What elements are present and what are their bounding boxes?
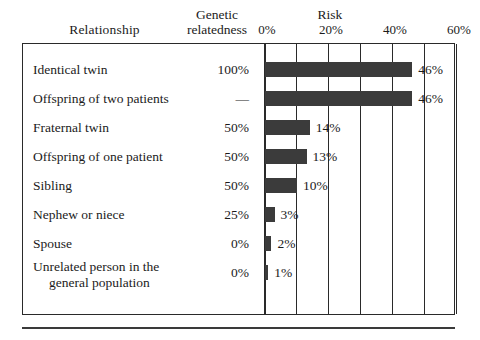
risk-bar-label: 10% (303, 171, 328, 200)
risk-bar (265, 178, 297, 193)
risk-bar (265, 236, 271, 251)
column-header-genetic-relatedness: Genetic relatedness (184, 7, 250, 37)
risk-bar (265, 149, 307, 164)
row-value-genetic-relatedness: 25% (183, 200, 249, 229)
table-row: Spouse0%2% (23, 229, 454, 258)
risk-bar-label: 46% (418, 84, 443, 113)
row-label-line1: Unrelated person in the (33, 259, 208, 275)
row-label-relationship: Unrelated person in thegeneral populatio… (33, 258, 208, 290)
risk-bar-label: 46% (418, 55, 443, 84)
x-axis-tick-60: 60% (442, 22, 476, 38)
gridline-60 (456, 44, 457, 314)
genetic-header-line2: relatedness (184, 22, 250, 37)
table-row: Sibling50%10% (23, 171, 454, 200)
row-label-line2: general population (33, 275, 208, 291)
row-label-relationship: Sibling (33, 171, 208, 200)
row-label-relationship: Nephew or niece (33, 200, 208, 229)
risk-bar (265, 207, 275, 222)
row-value-genetic-relatedness: 50% (183, 171, 249, 200)
risk-bar-label: 14% (316, 113, 341, 142)
row-label-relationship: Identical twin (33, 55, 208, 84)
table-row: Nephew or niece25%3% (23, 200, 454, 229)
row-value-genetic-relatedness: 50% (183, 113, 249, 142)
row-value-genetic-relatedness: 0% (183, 258, 249, 287)
column-header-risk: Risk (300, 7, 360, 23)
risk-bar-label: 13% (313, 142, 338, 171)
risk-bar-label: 3% (281, 200, 299, 229)
risk-bar (265, 265, 268, 280)
x-axis-tick-40: 40% (378, 22, 412, 38)
table-row: Fraternal twin50%14% (23, 113, 454, 142)
row-value-genetic-relatedness: 0% (183, 229, 249, 258)
genetic-header-line1: Genetic (184, 7, 250, 22)
table-row: Identical twin100%46% (23, 55, 454, 84)
risk-bar-label: 2% (277, 229, 295, 258)
row-value-genetic-relatedness: — (183, 84, 249, 113)
row-label-relationship: Spouse (33, 229, 208, 258)
x-axis-tick-0: 0% (250, 22, 284, 38)
x-axis-tick-20: 20% (314, 22, 348, 38)
chart-frame: Identical twin100%46%Offspring of two pa… (22, 43, 455, 315)
bottom-rule (22, 327, 455, 329)
chart-header: Relationship Genetic relatedness Risk 0%… (0, 0, 480, 43)
table-row: Offspring of one patient50%13% (23, 142, 454, 171)
column-header-relationship: Relationship (22, 22, 187, 38)
row-value-genetic-relatedness: 50% (183, 142, 249, 171)
risk-bar (265, 91, 412, 106)
row-value-genetic-relatedness: 100% (183, 55, 249, 84)
row-label-relationship: Offspring of one patient (33, 142, 208, 171)
risk-bar (265, 62, 412, 77)
risk-bar-label: 1% (274, 258, 292, 287)
table-row: Offspring of two patients—46% (23, 84, 454, 113)
risk-bar (265, 120, 310, 135)
table-row: Unrelated person in thegeneral populatio… (23, 258, 454, 287)
row-label-relationship: Fraternal twin (33, 113, 208, 142)
row-label-relationship: Offspring of two patients (33, 84, 208, 113)
